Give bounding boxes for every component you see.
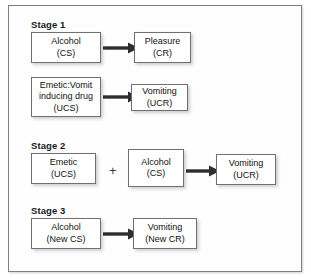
node-line-1: Alcohol	[51, 36, 81, 48]
node-line-2: (CS)	[147, 168, 166, 180]
node-line-2: (UCR)	[147, 98, 173, 110]
node-alcohol-new-cs: Alcohol (New CS)	[31, 218, 101, 249]
node-pleasure-cr: Pleasure (CR)	[134, 32, 191, 63]
node-line-3: (UCS)	[54, 103, 79, 115]
diagram-frame: Stage 1 Alcohol (CS) Pleasure (CR) Emeti…	[8, 5, 302, 272]
node-line-1: Vomiting	[148, 222, 183, 234]
node-line-1: Pleasure	[145, 36, 181, 48]
plus-operator: +	[109, 164, 117, 177]
node-line-2: (CR)	[153, 48, 172, 60]
node-line-1: Vomiting	[142, 86, 177, 98]
node-line-2: (CS)	[57, 48, 76, 60]
stage-1-label: Stage 1	[31, 19, 66, 30]
node-vomiting-ucr-stage1: Vomiting (UCR)	[131, 84, 188, 111]
stage-3-label: Stage 3	[31, 205, 66, 216]
node-line-1: Alcohol	[141, 157, 171, 169]
node-line-2: (UCS)	[51, 169, 76, 181]
node-line-1: Vomiting	[229, 158, 264, 170]
node-line-2: (New CS)	[46, 234, 85, 246]
node-emetic-ucs: Emetic (UCS)	[31, 153, 96, 184]
node-line-2: (UCR)	[233, 170, 259, 182]
node-line-1: Alcohol	[51, 222, 81, 234]
node-alcohol-cs-stage2: Alcohol (CS)	[128, 149, 184, 187]
node-vomiting-ucr-stage2: Vomiting (UCR)	[216, 154, 276, 185]
node-line-1: Emetic	[50, 157, 78, 169]
node-emetic-vomit-inducing-drug-ucs: Emetic:Vomit inducing drug (UCS)	[31, 77, 101, 117]
node-vomiting-new-cr: Vomiting (New CR)	[133, 218, 197, 249]
node-alcohol-cs: Alcohol (CS)	[31, 32, 101, 63]
node-line-2: (New CR)	[145, 234, 185, 246]
node-line-1: Emetic:Vomit	[40, 80, 93, 92]
node-line-2: inducing drug	[39, 91, 93, 103]
stage-2-label: Stage 2	[31, 140, 66, 151]
